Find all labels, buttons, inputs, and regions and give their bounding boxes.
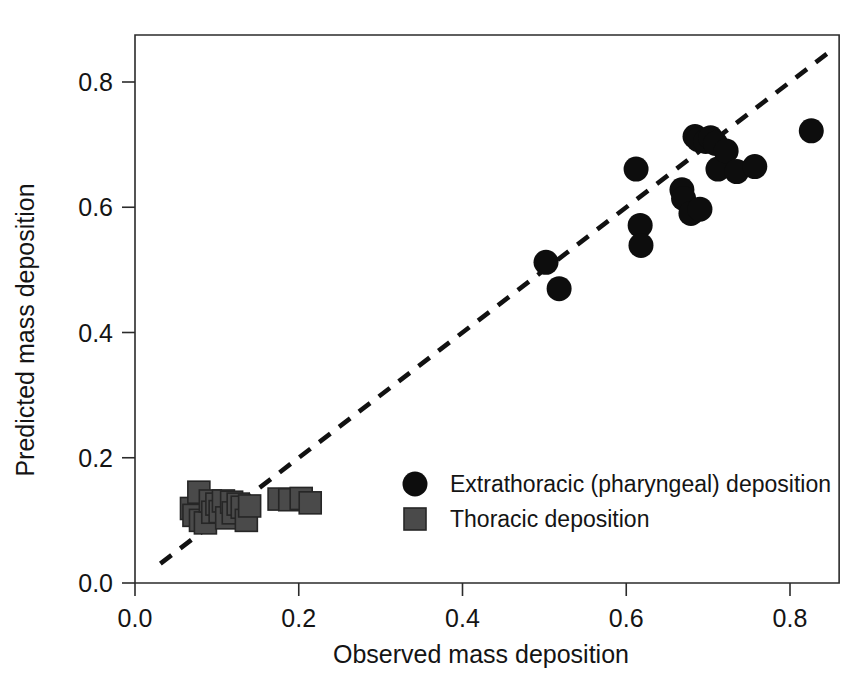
x-axis-ticks: 0.00.20.40.60.8	[118, 583, 808, 632]
x-tick-label: 0.6	[609, 604, 644, 632]
data-point-circle	[624, 157, 649, 182]
scatter-plot-figure: 0.00.20.40.60.8 0.00.20.40.60.8 Extratho…	[0, 0, 862, 696]
x-tick-label: 0.0	[118, 604, 153, 632]
y-tick-label: 0.6	[78, 193, 113, 221]
data-point-square	[239, 495, 261, 517]
x-axis-title: Observed mass deposition	[333, 640, 629, 668]
legend-label: Thoracic deposition	[450, 506, 649, 532]
y-tick-label: 0.8	[78, 68, 113, 96]
chart-legend: Extrathoracic (pharyngeal) depositionTho…	[403, 471, 831, 532]
data-point-circle	[687, 197, 712, 222]
x-tick-label: 0.4	[445, 604, 480, 632]
y-tick-label: 0.4	[78, 319, 113, 347]
data-point-circle	[534, 250, 559, 275]
data-point-circle	[799, 118, 824, 143]
y-axis-title: Predicted mass deposition	[11, 183, 39, 476]
data-point-square	[299, 492, 321, 514]
data-point-circle	[547, 276, 572, 301]
legend-marker-circle	[403, 472, 428, 497]
series-extrathoracic-deposition	[534, 118, 824, 301]
legend-label: Extrathoracic (pharyngeal) deposition	[450, 471, 831, 497]
y-axis-ticks: 0.00.20.40.60.8	[78, 68, 135, 597]
series-thoracic-deposition	[180, 481, 321, 534]
data-point-circle	[742, 154, 767, 179]
legend-marker-square	[404, 508, 426, 530]
y-tick-label: 0.2	[78, 444, 113, 472]
x-tick-label: 0.8	[773, 604, 808, 632]
y-tick-label: 0.0	[78, 569, 113, 597]
plot-canvas: 0.00.20.40.60.8 0.00.20.40.60.8 Extratho…	[0, 0, 862, 696]
x-tick-label: 0.2	[281, 604, 316, 632]
data-point-circle	[628, 233, 653, 258]
